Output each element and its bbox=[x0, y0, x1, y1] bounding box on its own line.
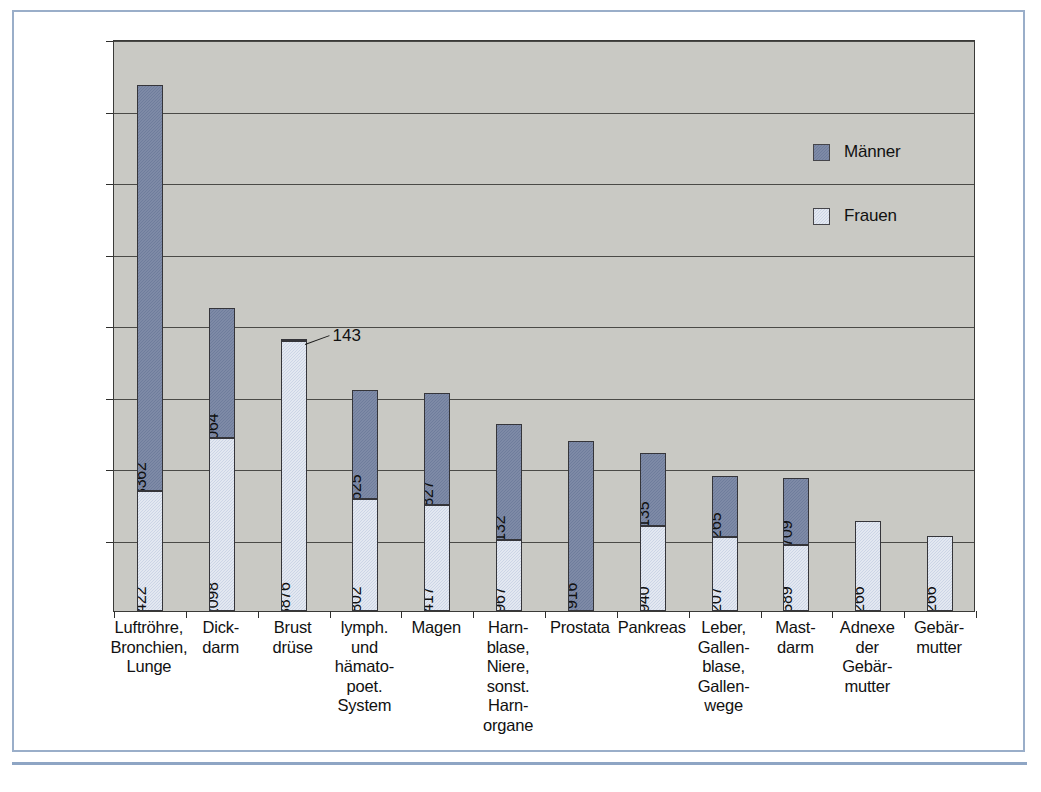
legend-item: Frauen bbox=[813, 206, 897, 226]
x-tick-mark bbox=[689, 611, 690, 618]
bar-group[interactable]: 78027625 bbox=[352, 390, 378, 611]
bar-segment-maenner[interactable]: 28362 bbox=[137, 85, 163, 491]
legend-label: Frauen bbox=[844, 206, 897, 226]
bar-value-label: 5207 bbox=[712, 587, 725, 611]
y-tick-mark bbox=[106, 113, 113, 114]
x-tick-mark bbox=[832, 611, 833, 618]
y-tick-mark bbox=[106, 327, 113, 328]
bar-value-label: 6266 bbox=[855, 587, 868, 611]
annotation-leader-line bbox=[304, 335, 329, 345]
bar-segment-frauen[interactable]: 5266 bbox=[927, 536, 953, 611]
x-category-label: Gebär- mutter bbox=[897, 618, 981, 657]
figure: 500010000150002000025000300003500040000 … bbox=[0, 0, 1041, 792]
x-tick-mark bbox=[904, 611, 905, 618]
bar-value-label: 7802 bbox=[352, 587, 365, 611]
bar-value-label: 5135 bbox=[640, 502, 653, 526]
bar-segment-maenner[interactable]: 4709 bbox=[783, 478, 809, 545]
bar-group[interactable]: 6266 bbox=[855, 521, 881, 611]
y-tick-mark bbox=[106, 542, 113, 543]
bar-segment-frauen[interactable]: 12098 bbox=[209, 438, 235, 611]
bar-group[interactable]: 45894709 bbox=[783, 478, 809, 611]
bar-segment-maenner[interactable]: 9064 bbox=[209, 308, 235, 438]
bar-segment-frauen[interactable]: 5207 bbox=[712, 537, 738, 611]
y-tick-mark bbox=[106, 41, 113, 42]
bar-segment-frauen[interactable]: 4589 bbox=[783, 545, 809, 611]
bar-segment-frauen[interactable]: 4967 bbox=[496, 540, 522, 611]
figure-bottom-rule bbox=[12, 762, 1027, 765]
x-tick-mark bbox=[545, 611, 546, 618]
bar-value-label: 12098 bbox=[209, 582, 222, 611]
bar-value-label: 4967 bbox=[496, 587, 509, 611]
bar-group[interactable]: 11916 bbox=[568, 441, 594, 611]
x-tick-mark bbox=[976, 611, 977, 618]
gridline bbox=[114, 184, 974, 185]
bar-group[interactable]: 49678132 bbox=[496, 424, 522, 611]
legend-item: Männer bbox=[813, 142, 900, 162]
bar-group[interactable]: 5266 bbox=[927, 536, 953, 611]
legend-swatch-frauen bbox=[813, 208, 830, 225]
bar-segment-frauen[interactable]: 7417 bbox=[424, 505, 450, 611]
bar-value-label: 5940 bbox=[640, 587, 653, 611]
bar-value-label: 4589 bbox=[783, 587, 796, 611]
x-tick-mark bbox=[761, 611, 762, 618]
bar-segment-maenner[interactable]: 11916 bbox=[568, 441, 594, 611]
bar-value-label: 11916 bbox=[568, 583, 581, 611]
bar-group[interactable]: 74177827 bbox=[424, 393, 450, 611]
legend-label: Männer bbox=[844, 142, 900, 162]
y-tick-mark bbox=[106, 256, 113, 257]
bar-value-label: 8422 bbox=[137, 587, 150, 611]
bar-group[interactable]: 18876 bbox=[281, 339, 307, 611]
annotation-value-143: 143 bbox=[333, 326, 361, 346]
legend-swatch-maenner bbox=[813, 144, 830, 161]
bar-segment-maenner[interactable] bbox=[281, 339, 307, 341]
bar-segment-maenner[interactable]: 7625 bbox=[352, 390, 378, 499]
bar-value-label: 7827 bbox=[424, 481, 437, 505]
bar-segment-maenner[interactable]: 4265 bbox=[712, 476, 738, 537]
x-tick-mark bbox=[330, 611, 331, 618]
bar-value-label: 7625 bbox=[352, 475, 365, 499]
gridline bbox=[114, 470, 974, 471]
bar-group[interactable]: 842228362 bbox=[137, 85, 163, 611]
y-tick-mark bbox=[106, 399, 113, 400]
gridline bbox=[114, 41, 974, 42]
bar-group[interactable]: 52074265 bbox=[712, 476, 738, 611]
y-tick-mark bbox=[106, 184, 113, 185]
bar-value-label: 4709 bbox=[783, 521, 796, 545]
gridline bbox=[114, 113, 974, 114]
x-tick-mark bbox=[401, 611, 402, 618]
x-tick-mark bbox=[114, 611, 115, 618]
x-tick-mark bbox=[473, 611, 474, 618]
gridline bbox=[114, 327, 974, 328]
bar-segment-frauen[interactable]: 5940 bbox=[640, 526, 666, 611]
bar-segment-frauen[interactable]: 6266 bbox=[855, 521, 881, 611]
bar-segment-maenner[interactable]: 7827 bbox=[424, 393, 450, 505]
bar-value-label: 9064 bbox=[209, 414, 222, 438]
plot-area: 8422283621209890641887678027625741778274… bbox=[113, 40, 975, 612]
bar-group[interactable]: 120989064 bbox=[209, 308, 235, 611]
bar-segment-frauen[interactable]: 7802 bbox=[352, 499, 378, 611]
gridline bbox=[114, 542, 974, 543]
bar-group[interactable]: 59405135 bbox=[640, 453, 666, 611]
bar-segment-maenner[interactable]: 5135 bbox=[640, 453, 666, 526]
bar-segment-frauen[interactable]: 8422 bbox=[137, 491, 163, 611]
gridline bbox=[114, 256, 974, 257]
bar-value-label: 5266 bbox=[927, 587, 940, 611]
bar-value-label: 28362 bbox=[137, 462, 150, 491]
bar-value-label: 4265 bbox=[712, 512, 725, 536]
bar-value-label: 18876 bbox=[281, 582, 294, 611]
bar-value-label: 7417 bbox=[424, 587, 437, 611]
x-tick-mark bbox=[617, 611, 618, 618]
bar-segment-frauen[interactable]: 18876 bbox=[281, 341, 307, 611]
y-tick-mark bbox=[106, 470, 113, 471]
bar-segment-maenner[interactable]: 8132 bbox=[496, 424, 522, 540]
x-tick-mark bbox=[186, 611, 187, 618]
bar-value-label: 8132 bbox=[496, 516, 509, 540]
gridline bbox=[114, 399, 974, 400]
x-tick-mark bbox=[258, 611, 259, 618]
